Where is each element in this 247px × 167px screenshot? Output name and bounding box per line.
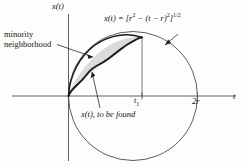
figure-container: x(t) t x(t) = [r2 − (t − r)2]1/2 minorit… [0,0,247,167]
unknown-curve-x-of-t [69,37,143,96]
formula-mid: − (t − r) [135,13,166,23]
figure-canvas [0,0,247,167]
shaded-minority-region [68,37,142,96]
x-tick-label-t1: t1 [134,97,139,106]
leader-line-tobefound [92,72,100,108]
x-tick-label-t1-subscript: 1 [136,101,139,107]
minority-neighborhood-line-2: neighborhood [4,40,51,50]
formula-lhs: x(t) = [r [104,13,132,23]
semicircle-arc-highlight [69,35,143,96]
x-tick-label-2r: 2r [192,97,200,107]
y-axis-label: x(t) [52,2,64,12]
formula-annotation: x(t) = [r2 − (t − r)2]1/2 [104,14,181,24]
minority-neighborhood-annotation: minority neighborhood [4,30,51,49]
to-be-found-annotation: x(t), to be found [81,110,135,120]
formula-exponent-3: 1/2 [173,12,181,18]
x-axis-label: t [233,92,235,102]
